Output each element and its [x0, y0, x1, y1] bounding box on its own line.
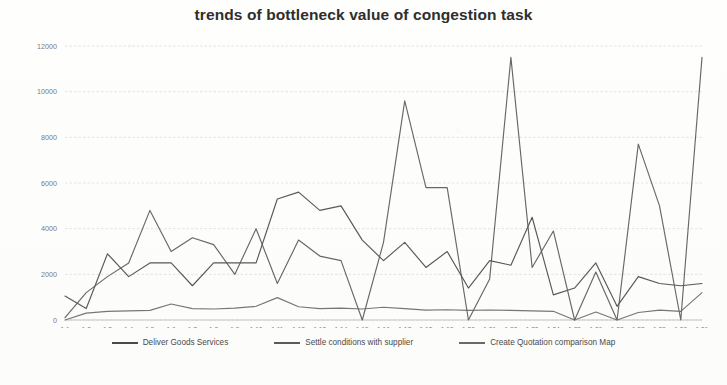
x-axis-tick-label: 1.7: [188, 326, 197, 328]
x-axis-tick-label: 1.16: [377, 326, 390, 328]
x-axis-tick-label: 1.19: [441, 326, 454, 328]
x-axis-tick-label: 1.6: [167, 326, 176, 328]
legend-item-label: Create Quotation comparison Map: [490, 338, 615, 347]
x-axis-tick-label: 1.17: [398, 326, 411, 328]
x-axis-tick-label: 1.11: [271, 326, 284, 328]
legend-swatch-icon: [112, 342, 138, 344]
y-axis-tick-label: 4000: [41, 224, 57, 233]
x-axis-tick-label: 1.28: [632, 326, 645, 328]
x-axis-tick-label: 1.20: [462, 326, 475, 328]
x-axis-tick-label: 1.27: [611, 326, 624, 328]
legend-item-3[interactable]: Create Quotation comparison Map: [459, 338, 615, 347]
x-axis-tick-label: 1.21: [483, 326, 496, 328]
x-axis-tick-label: 1.3: [103, 326, 112, 328]
x-axis-tick-label: 1.25: [568, 326, 581, 328]
x-axis-tick-label: 1.9: [230, 326, 239, 328]
line-chart: 0200040006000800010000120001.11.21.31.41…: [0, 36, 727, 328]
y-axis-tick-label: 0: [53, 316, 57, 325]
x-axis-tick-label: 1.30: [674, 326, 687, 328]
x-axis-tick-label: 1.8: [209, 326, 218, 328]
legend-item-label: Settle conditions with supplier: [305, 338, 413, 347]
legend-swatch-icon: [459, 342, 485, 344]
x-axis-tick-label: 1.24: [547, 326, 560, 328]
x-axis-tick-label: 1.14: [335, 326, 348, 328]
x-axis-tick-label: 1.4: [124, 326, 133, 328]
x-axis-tick-label: 1.26: [589, 326, 602, 328]
series-line-1: [65, 192, 702, 308]
legend-item-label: Deliver Goods Services: [143, 338, 229, 347]
x-axis-tick-label: 1.2: [82, 326, 91, 328]
chart-title: trends of bottleneck value of congestion…: [0, 6, 727, 24]
chart-legend: Deliver Goods ServicesSettle conditions …: [0, 338, 727, 347]
legend-swatch-icon: [274, 342, 300, 344]
x-axis-tick-label: 1.13: [313, 326, 326, 328]
legend-item-1[interactable]: Deliver Goods Services: [112, 338, 229, 347]
x-axis-tick-label: 1.29: [653, 326, 666, 328]
y-axis-tick-label: 2000: [41, 270, 57, 279]
x-axis-tick-label: 1.15: [356, 326, 369, 328]
y-axis-tick-label: 10000: [37, 87, 57, 96]
x-axis-tick-label: 1.12: [292, 326, 305, 328]
x-axis-tick-label: 1.18: [420, 326, 433, 328]
x-axis-tick-label: 1.1: [60, 326, 69, 328]
legend-item-2[interactable]: Settle conditions with supplier: [274, 338, 413, 347]
series-line-2: [65, 57, 702, 320]
chart-plot-area: 0200040006000800010000120001.11.21.31.41…: [0, 36, 727, 328]
x-axis-tick-label: 1.31: [696, 326, 709, 328]
x-axis-tick-label: 1.23: [526, 326, 539, 328]
x-axis-tick-label: 1.10: [250, 326, 263, 328]
x-axis-tick-label: 1.5: [145, 326, 154, 328]
y-axis-tick-label: 8000: [41, 133, 57, 142]
y-axis-tick-label: 12000: [37, 42, 57, 51]
x-axis-tick-label: 1.22: [504, 326, 517, 328]
y-axis-tick-label: 6000: [41, 179, 57, 188]
